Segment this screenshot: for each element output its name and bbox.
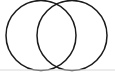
venn-diagram-svg: [0, 0, 115, 73]
venn-diagram-figure: [0, 0, 115, 73]
